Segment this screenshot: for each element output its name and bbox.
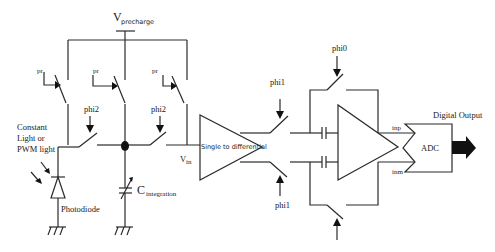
arrow-icon — [333, 218, 341, 226]
circuit-diagram: V precharge pr pr pr phi2 — [0, 0, 495, 252]
inp-label: inp — [392, 124, 401, 132]
cint-label: C — [137, 183, 145, 197]
vprecharge-sub: precharge — [121, 18, 154, 26]
arrow-icon — [276, 175, 284, 183]
inm-label: inm — [392, 168, 403, 176]
phi2-label-b: phi2 — [151, 104, 166, 114]
pr-label-3: pr — [152, 67, 159, 75]
digital-output-label: Digital Output — [433, 110, 483, 120]
photodiode-label: Photodiode — [61, 204, 100, 214]
digital-output-arrow-icon — [452, 136, 476, 159]
pr-label-2: pr — [93, 67, 100, 75]
phi0-switch-bottom — [310, 162, 378, 240]
adc-block: ADC — [403, 124, 452, 172]
phi2-label-a: phi2 — [84, 104, 99, 114]
differential-amplifier: inp inm — [338, 105, 415, 180]
photodiode: Photodiode — [48, 147, 100, 235]
single-to-differential-block: Single to differential — [200, 115, 270, 180]
light-label-line2: Light or — [17, 133, 45, 143]
light-label-line3: PWM light — [17, 144, 56, 154]
arrow-icon — [276, 111, 284, 119]
vprecharge-supply: V precharge — [68, 10, 187, 80]
phi2-switch-b: phi2 — [125, 104, 200, 145]
arrow-icon — [156, 125, 164, 133]
integration-capacitor: C integration — [115, 150, 177, 235]
adc-label: ADC — [421, 143, 439, 153]
ground-icon — [48, 227, 66, 235]
ground-icon — [115, 227, 133, 235]
light-source-label: Constant Light or PWM light — [17, 122, 56, 184]
coupling-capacitors — [322, 127, 338, 168]
cint-sub: integration — [146, 190, 177, 198]
light-arrow-icon — [35, 178, 42, 184]
phi0-switch-top: phi0 — [310, 43, 378, 133]
light-label-line1: Constant — [17, 122, 48, 132]
phi0-label: phi0 — [332, 43, 347, 53]
vin-sub: in — [186, 158, 192, 166]
phi1-switch-top: phi1 — [270, 77, 322, 133]
diode-icon — [51, 177, 65, 198]
light-arrow-icon — [44, 168, 50, 174]
phi1-switch-bottom: phi1 — [270, 162, 322, 210]
variable-arrow-icon — [121, 180, 131, 199]
converter-label: Single to differential — [201, 143, 267, 151]
pr-label-1: pr — [37, 67, 44, 75]
phi1-bottom-label: phi1 — [275, 200, 290, 210]
phi1-top-label: phi1 — [270, 77, 285, 87]
arrow-icon — [333, 69, 341, 77]
node-dot — [121, 141, 129, 151]
arrow-icon — [86, 125, 94, 133]
